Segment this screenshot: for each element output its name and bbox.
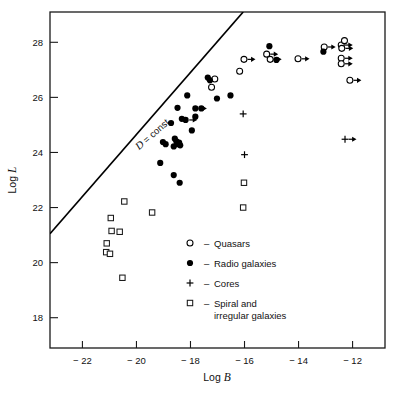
x-axis-title: LogB xyxy=(203,371,231,383)
x-tick-label: − 18 xyxy=(181,355,200,366)
data-point-plus xyxy=(342,136,349,143)
data-point-open-square xyxy=(107,251,112,256)
upper-limit-arrow-icon xyxy=(345,46,353,51)
upper-limit-arrow-icon xyxy=(328,44,336,49)
data-point-open-circle xyxy=(209,84,215,90)
upper-limit-arrow-icon xyxy=(248,57,256,62)
data-point-open-circle xyxy=(338,61,344,67)
series-cores xyxy=(240,111,357,159)
legend-label: Radio galaxies xyxy=(214,258,277,269)
data-point-filled-circle xyxy=(174,105,180,111)
y-axis-ticks: 182022242628 xyxy=(32,37,58,323)
data-point-filled-circle xyxy=(184,92,190,98)
scatter-plot: − 22− 20− 18− 16− 14− 12 182022242628 D=… xyxy=(0,0,399,394)
y-tick-label: 22 xyxy=(32,202,43,213)
reference-line-d-const xyxy=(50,12,243,234)
data-point-filled-circle xyxy=(157,160,163,166)
data-point-filled-circle xyxy=(320,49,326,55)
data-point-open-square xyxy=(108,215,113,220)
upper-limit-arrow-icon xyxy=(345,56,353,61)
x-tick-label: − 20 xyxy=(127,355,146,366)
legend-dash: – xyxy=(204,238,210,249)
legend-marker-plus xyxy=(187,280,194,287)
data-point-open-square xyxy=(241,180,246,185)
data-point-filled-circle xyxy=(189,127,195,133)
legend-dash: – xyxy=(204,298,210,309)
data-point-filled-circle xyxy=(177,142,183,148)
data-point-filled-circle xyxy=(163,141,169,147)
data-point-open-square xyxy=(240,205,245,210)
y-tick-label: 24 xyxy=(32,147,43,158)
data-point-filled-circle xyxy=(183,117,189,123)
y-tick-label: 20 xyxy=(32,257,43,268)
reference-line xyxy=(50,12,243,234)
data-point-open-square xyxy=(109,228,114,233)
data-point-filled-circle xyxy=(171,143,177,149)
data-point-filled-circle xyxy=(207,77,213,83)
data-point-filled-circle xyxy=(273,57,279,63)
data-point-open-circle xyxy=(241,56,247,62)
data-point-filled-circle xyxy=(192,105,198,111)
data-point-open-square xyxy=(104,241,109,246)
legend-item-cores: –Cores xyxy=(187,278,240,289)
legend-item-spiral_irregular: –Spiral andirregular galaxies xyxy=(187,298,286,322)
data-point-open-square xyxy=(149,210,154,215)
data-point-filled-circle xyxy=(227,92,233,98)
data-point-filled-circle xyxy=(177,180,183,186)
legend-marker-open-square xyxy=(187,300,192,305)
data-point-open-circle xyxy=(339,45,345,51)
y-tick-label: 28 xyxy=(32,37,43,48)
upper-limit-arrow-icon xyxy=(302,56,310,61)
y-axis-title: LogL xyxy=(6,167,18,194)
data-point-open-circle xyxy=(237,68,243,74)
data-point-filled-circle xyxy=(266,43,272,49)
data-point-open-circle xyxy=(295,56,301,62)
data-point-plus xyxy=(240,111,247,118)
data-point-open-square xyxy=(117,229,122,234)
legend-label: Cores xyxy=(214,278,240,289)
axis-titles: LogB LogL xyxy=(6,167,231,383)
x-tick-label: − 12 xyxy=(343,355,362,366)
data-point-filled-circle xyxy=(214,95,220,101)
upper-limit-arrow-icon xyxy=(353,78,361,83)
upper-limit-arrow-icon xyxy=(270,52,278,57)
x-tick-label: − 14 xyxy=(289,355,308,366)
data-point-open-circle xyxy=(341,38,347,44)
upper-limit-arrow-icon xyxy=(345,61,353,66)
series-quasars xyxy=(209,38,362,91)
data-point-filled-circle xyxy=(192,114,198,120)
data-point-filled-circle xyxy=(198,105,204,111)
x-tick-label: − 16 xyxy=(235,355,254,366)
data-point-filled-circle xyxy=(171,172,177,178)
legend-label: Quasars xyxy=(214,238,250,249)
legend-label: Spiral and xyxy=(214,298,257,309)
y-tick-label: 26 xyxy=(32,92,43,103)
legend-item-radio_galaxies: –Radio galaxies xyxy=(187,258,277,269)
upper-limit-arrow-icon xyxy=(349,137,357,142)
legend: –Quasars–Radio galaxies–Cores–Spiral and… xyxy=(187,238,287,322)
legend-item-quasars: –Quasars xyxy=(187,238,250,249)
legend-marker-filled-circle xyxy=(187,260,193,266)
x-tick-label: − 22 xyxy=(73,355,92,366)
legend-dash: – xyxy=(204,278,210,289)
data-point-plus xyxy=(241,151,248,158)
legend-label-line2: irregular galaxies xyxy=(214,310,287,321)
figure-container: − 22− 20− 18− 16− 14− 12 182022242628 D=… xyxy=(0,0,399,394)
legend-dash: – xyxy=(204,258,210,269)
data-point-open-circle xyxy=(347,77,353,83)
y-tick-label: 18 xyxy=(32,312,43,323)
data-point-open-circle xyxy=(267,56,273,62)
legend-marker-open-circle xyxy=(187,240,193,246)
data-point-filled-circle xyxy=(168,120,174,126)
data-point-open-square xyxy=(120,275,125,280)
data-point-open-square xyxy=(122,199,127,204)
x-axis-ticks: − 22− 20− 18− 16− 14− 12 xyxy=(73,341,362,366)
